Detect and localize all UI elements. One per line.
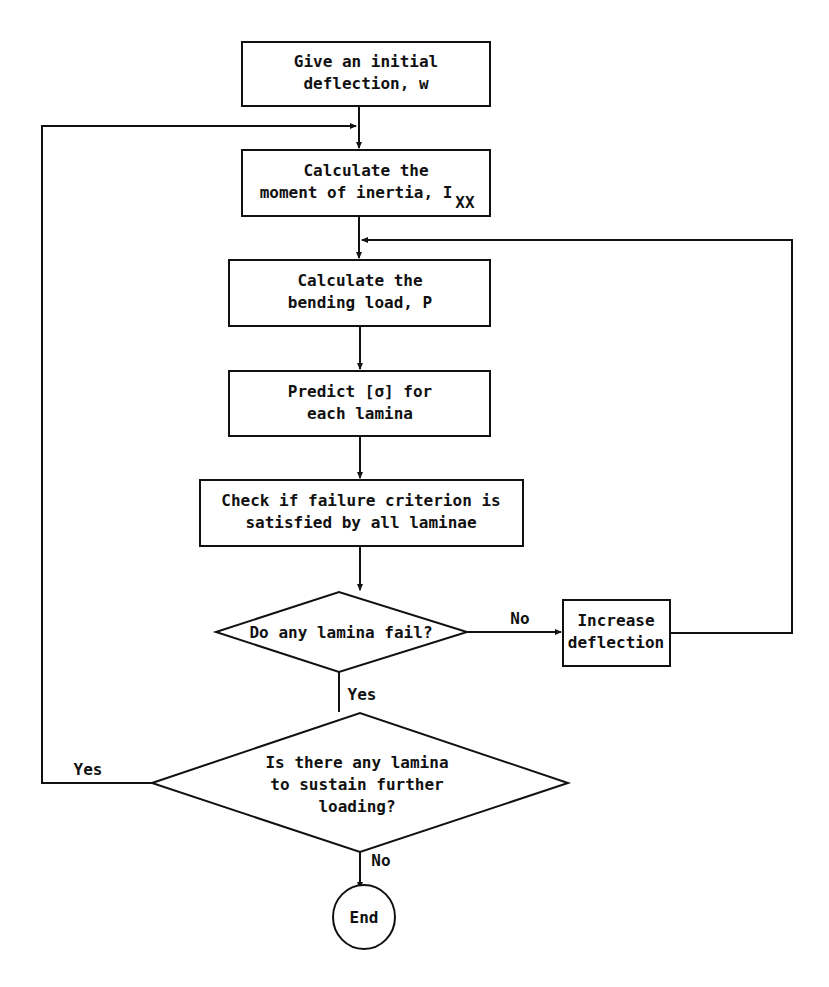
node-initial-deflection-line2: deflection, w [303, 74, 429, 93]
node-sustain-decision-line3: loading? [318, 797, 395, 816]
node-end: End [333, 885, 395, 949]
node-moment-of-inertia: Calculate the moment of inertia, I XX [242, 150, 490, 216]
node-end-text: End [350, 908, 379, 927]
label-sustain-yes: Yes [74, 760, 103, 779]
label-fail-yes: Yes [348, 685, 377, 704]
node-sustain-decision-line1: Is there any lamina [265, 753, 448, 772]
node-check-failure: Check if failure criterion is satisfied … [200, 480, 523, 546]
inertia-subscript: XX [455, 193, 475, 212]
node-lamina-fail-decision-text: Do any lamina fail? [249, 623, 432, 642]
node-sustain-decision: Is there any lamina to sustain further l… [152, 713, 568, 852]
node-predict-stress: Predict [σ] for each lamina [229, 371, 490, 436]
node-check-failure-line2: satisfied by all laminae [245, 513, 476, 532]
node-bending-load: Calculate the bending load, P [229, 260, 490, 326]
node-initial-deflection: Give an initial deflection, w [242, 42, 490, 106]
node-sustain-decision-line2: to sustain further [270, 775, 443, 794]
node-increase-deflection-line2: deflection [568, 633, 664, 652]
node-predict-stress-line1: Predict [σ] for [288, 382, 433, 401]
node-lamina-fail-decision: Do any lamina fail? [216, 592, 467, 672]
node-bending-load-line2: bending load, P [288, 293, 433, 312]
node-moment-of-inertia-line2: moment of inertia, I [260, 183, 453, 202]
label-sustain-no: No [371, 851, 390, 870]
arrow-sustain-yes-loop [42, 126, 356, 783]
flowchart-canvas: Give an initial deflection, w Calculate … [0, 0, 829, 987]
node-increase-deflection-line1: Increase [577, 611, 654, 630]
node-predict-stress-line2: each lamina [307, 404, 413, 423]
node-moment-of-inertia-line1: Calculate the [303, 161, 428, 180]
label-fail-no: No [510, 609, 529, 628]
node-initial-deflection-line1: Give an initial [294, 52, 439, 71]
node-increase-deflection: Increase deflection [563, 600, 670, 666]
node-check-failure-line1: Check if failure criterion is [221, 491, 500, 510]
node-bending-load-line1: Calculate the [297, 271, 422, 290]
